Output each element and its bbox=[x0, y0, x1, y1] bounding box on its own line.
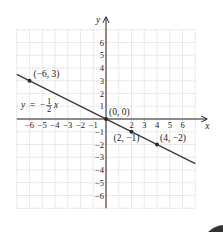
x-tick-label: −5 bbox=[38, 120, 47, 130]
x-tick-label: −4 bbox=[50, 120, 60, 130]
x-tick-label: 6 bbox=[180, 120, 184, 130]
x-tick-label: −2 bbox=[76, 120, 85, 130]
equation-label: y=−12x bbox=[20, 96, 59, 114]
corner-shape bbox=[208, 225, 223, 232]
y-tick-label: 2 bbox=[100, 89, 104, 99]
y-tick-label: −4 bbox=[95, 165, 105, 175]
svg-text:y: y bbox=[20, 100, 26, 110]
y-tick-label: 6 bbox=[100, 38, 104, 48]
point-marker bbox=[155, 143, 159, 147]
x-tick-label: −6 bbox=[25, 120, 34, 130]
y-tick-label: −2 bbox=[95, 140, 104, 150]
y-tick-label: −5 bbox=[95, 178, 104, 188]
x-tick-label: 5 bbox=[168, 120, 172, 130]
point-label: (−6, 3) bbox=[34, 69, 60, 80]
x-tick-label: 2 bbox=[129, 120, 133, 130]
y-tick-label: −3 bbox=[95, 152, 104, 162]
svg-text:x: x bbox=[53, 100, 59, 110]
x-axis-label: x bbox=[204, 121, 210, 131]
svg-text:=: = bbox=[30, 100, 35, 110]
point-label: (2, −1) bbox=[114, 133, 140, 144]
coordinate-plane: −6−5−4−3−2−123456654321−1−2−3−4−5−6 (−6,… bbox=[0, 0, 223, 232]
point-marker bbox=[104, 117, 108, 121]
point-marker bbox=[28, 79, 32, 83]
y-axis-label: y bbox=[95, 15, 101, 25]
y-tick-label: 3 bbox=[100, 76, 104, 86]
y-tick-label: −6 bbox=[95, 191, 104, 201]
y-tick-label: 4 bbox=[100, 63, 105, 73]
y-tick-label: −1 bbox=[95, 127, 104, 137]
svg-text:−: − bbox=[40, 100, 45, 110]
point-label: (4, −2) bbox=[160, 133, 186, 144]
point-label: (0, 0) bbox=[109, 107, 130, 118]
y-tick-label: 5 bbox=[100, 50, 104, 60]
x-tick-label: 3 bbox=[142, 120, 146, 130]
x-tick-label: 4 bbox=[155, 120, 160, 130]
x-tick-label: −3 bbox=[63, 120, 72, 130]
plotted-points: (−6, 3)(0, 0)(2, −1)(4, −2) bbox=[28, 69, 186, 147]
y-tick-label: 1 bbox=[100, 101, 104, 111]
svg-text:2: 2 bbox=[47, 104, 51, 114]
